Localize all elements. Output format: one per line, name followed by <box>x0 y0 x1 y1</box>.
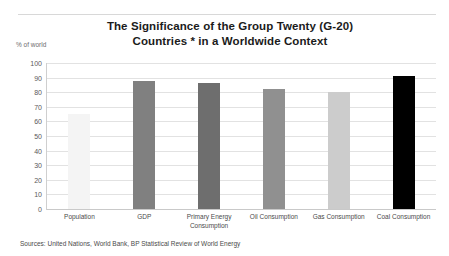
chart-title-line-2: Countries * in a Worldwide Context <box>60 34 400 49</box>
y-axis-tick-label: 10 <box>34 191 42 198</box>
y-axis-tick-label: 40 <box>34 147 42 154</box>
y-axis-tick-label: 20 <box>34 176 42 183</box>
chart-title-line-1: The Significance of the Group Twenty (G-… <box>60 19 400 34</box>
plot-area <box>47 63 436 209</box>
bar-slot <box>306 63 371 209</box>
bar-slot <box>112 63 177 209</box>
y-axis-tick-label: 70 <box>34 103 42 110</box>
y-axis-tick-label: 0 <box>38 206 42 213</box>
bar-slot <box>241 63 306 209</box>
header-divider <box>18 14 436 15</box>
x-axis-label-coal-consumption: Coal Consumption <box>371 212 436 230</box>
y-axis-tick-label: 100 <box>30 60 42 67</box>
x-axis-label-primary-energy-consumption: Primary Energy Consumption <box>177 212 242 230</box>
chart-title: The Significance of the Group Twenty (G-… <box>60 19 400 49</box>
x-axis-label-gas-consumption: Gas Consumption <box>306 212 371 230</box>
bar-slot <box>371 63 436 209</box>
bar-coal-consumption[interactable] <box>393 76 415 209</box>
bar-oil-consumption[interactable] <box>263 89 285 209</box>
x-axis-label-population: Population <box>47 212 112 230</box>
bar-slot <box>177 63 242 209</box>
bar-gas-consumption[interactable] <box>328 92 350 209</box>
bar-primary-energy-consumption[interactable] <box>198 83 220 209</box>
y-axis-tick-label: 80 <box>34 89 42 96</box>
y-axis-unit-label: % of world <box>16 41 46 48</box>
sources-note: Sources: United Nations, World Bank, BP … <box>20 240 240 247</box>
y-axis-tick-label: 30 <box>34 162 42 169</box>
bar-series <box>47 63 436 209</box>
y-axis-tick-label: 50 <box>34 133 42 140</box>
x-axis-category-labels: PopulationGDPPrimary Energy ConsumptionO… <box>47 212 436 230</box>
x-axis-label-oil-consumption: Oil Consumption <box>241 212 306 230</box>
gridline <box>47 209 436 210</box>
chart-figure: The Significance of the Group Twenty (G-… <box>0 0 449 256</box>
bar-slot <box>47 63 112 209</box>
y-axis-tick-labels: 1009080706050403020100 <box>14 63 42 209</box>
bar-population[interactable] <box>68 114 90 209</box>
x-axis-label-gdp: GDP <box>112 212 177 230</box>
bar-gdp[interactable] <box>133 81 155 209</box>
y-axis-tick-label: 60 <box>34 118 42 125</box>
y-axis-tick-label: 90 <box>34 74 42 81</box>
